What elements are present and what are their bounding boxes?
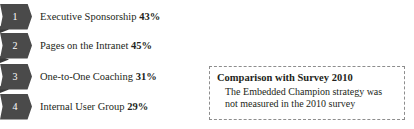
list-item: 1 Executive Sponsorship 43%	[0, 2, 210, 31]
rank-number: 1	[13, 12, 20, 22]
ranked-strategy-list: 1 Executive Sponsorship 43% 2 Pages on t…	[0, 0, 210, 129]
comparison-callout-box: Comparison with Survey 2010 The Embedded…	[209, 66, 405, 120]
rank-banner-4: 4	[0, 94, 32, 120]
list-item: 2 Pages on the Intranet 45%	[0, 31, 210, 60]
strategy-label: One-to-One Coaching	[40, 71, 133, 82]
strategy-value: 45%	[131, 40, 152, 51]
rank-banner-3: 3	[0, 64, 32, 90]
rank-banner-2: 2	[0, 33, 32, 59]
rank-banner-1: 1	[0, 4, 32, 30]
list-item: 3 One-to-One Coaching 31%	[0, 62, 210, 91]
strategy-label: Executive Sponsorship	[40, 11, 137, 22]
strategy-value: 29%	[127, 101, 148, 112]
rank-number: 3	[13, 72, 20, 82]
infographic-panel: 1 Executive Sponsorship 43% 2 Pages on t…	[0, 0, 414, 129]
strategy-row-text: Internal User Group 29%	[40, 101, 148, 113]
rank-number: 4	[13, 102, 20, 112]
list-item: 4 Internal User Group 29%	[0, 92, 210, 121]
strategy-label: Pages on the Intranet	[40, 40, 128, 51]
callout-body-line-1: The Embedded Champion strategy was	[225, 86, 397, 99]
callout-body-line-2: not measured in the 2010 survey	[225, 98, 397, 111]
strategy-row-text: One-to-One Coaching 31%	[40, 71, 157, 83]
strategy-row-text: Pages on the Intranet 45%	[40, 40, 152, 52]
strategy-value: 43%	[139, 11, 160, 22]
strategy-value: 31%	[136, 71, 157, 82]
callout-body: The Embedded Champion strategy was not m…	[217, 86, 397, 112]
strategy-row-text: Executive Sponsorship 43%	[40, 11, 160, 23]
strategy-label: Internal User Group	[40, 101, 125, 112]
rank-number: 2	[13, 41, 20, 51]
callout-title: Comparison with Survey 2010	[217, 72, 397, 85]
